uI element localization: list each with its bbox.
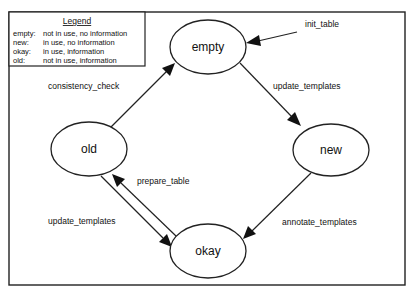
- edge-new-to-okay: annotate_templates: [243, 173, 357, 239]
- node-label-empty: empty: [192, 40, 225, 54]
- node-old: old: [51, 122, 127, 176]
- node-new: new: [293, 124, 369, 176]
- edge-label-update-templates-1: update_templates: [273, 81, 341, 91]
- legend-key-old: old:: [13, 56, 25, 65]
- state-diagram: Legend empty: not in use, no information…: [0, 0, 415, 293]
- arrowhead-icon: [246, 35, 261, 46]
- edge-init-table: init_table: [246, 19, 339, 46]
- legend-key-empty: empty:: [13, 29, 36, 38]
- node-label-new: new: [320, 143, 342, 157]
- legend: Legend empty: not in use, no information…: [9, 12, 145, 66]
- legend-desc-old: not in use, information: [43, 56, 117, 65]
- legend-desc-new: in use, no information: [43, 38, 115, 47]
- arrowhead-icon: [243, 226, 256, 239]
- edge-label-consistency-check: consistency_check: [48, 81, 120, 91]
- node-label-okay: okay: [195, 244, 220, 258]
- legend-desc-empty: not in use, no information: [43, 29, 127, 38]
- node-label-old: old: [81, 142, 97, 156]
- legend-key-new: new:: [13, 38, 29, 47]
- edge-label-annotate-templates: annotate_templates: [282, 217, 357, 227]
- edge-line: [121, 183, 176, 236]
- edge-line: [111, 71, 167, 127]
- edge-old-to-empty: consistency_check: [48, 63, 175, 127]
- edge-empty-to-new: update_templates: [240, 63, 341, 126]
- node-empty: empty: [170, 20, 246, 74]
- legend-desc-okay: in use, information: [43, 47, 104, 56]
- legend-title: Legend: [63, 16, 92, 26]
- edge-old-to-okay: update_templates: [48, 176, 172, 247]
- node-okay: okay: [170, 224, 246, 278]
- legend-key-okay: okay:: [13, 47, 31, 56]
- edge-label-init-table: init_table: [305, 19, 339, 29]
- edge-label-prepare-table: prepare_table: [137, 176, 190, 186]
- edge-label-update-templates-2: update_templates: [48, 216, 116, 226]
- edge-line: [258, 32, 297, 41]
